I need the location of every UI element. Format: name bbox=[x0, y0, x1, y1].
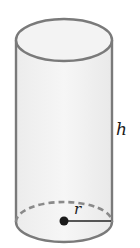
height-label: h bbox=[116, 121, 127, 138]
top-base-ellipse bbox=[16, 19, 112, 61]
center-point-dot bbox=[60, 217, 69, 226]
radius-label: r bbox=[74, 202, 81, 217]
cylinder-body bbox=[16, 40, 112, 242]
